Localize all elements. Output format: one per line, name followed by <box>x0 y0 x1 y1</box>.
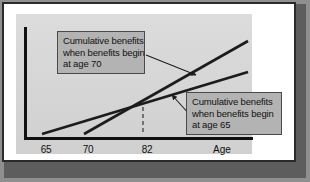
leader-line-age70 <box>146 55 196 75</box>
callout-age65-line1: Cumulative benefits <box>192 96 277 108</box>
callout-age65: Cumulative benefits when benefits begin … <box>186 92 282 135</box>
chart-lines-overlay <box>0 0 310 182</box>
callout-age65-line2: when benefits begin <box>192 108 277 120</box>
callout-age65-line3: at age 65 <box>192 119 277 131</box>
callout-age70-line2: when benefits begin <box>63 47 140 59</box>
callout-age70-line3: at age 70 <box>63 58 140 70</box>
callout-age70-line1: Cumulative benefits <box>63 35 140 47</box>
chart-figure: 65 70 82 Age Cumulative benefits when be… <box>0 0 310 182</box>
callout-age70: Cumulative benefits when benefits begin … <box>57 31 145 74</box>
